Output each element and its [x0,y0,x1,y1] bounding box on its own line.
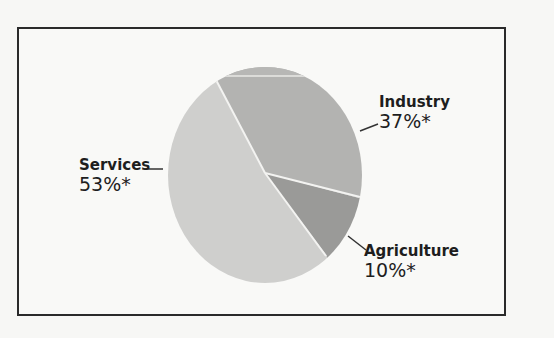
label-services: Services 53%* [79,158,150,194]
label-services-pct: 53%* [79,175,150,194]
label-industry: Industry 37%* [379,95,450,131]
label-agriculture-name: Agriculture [364,244,459,259]
label-industry-pct: 37%* [379,112,450,131]
leader-industry [360,124,378,131]
label-agriculture: Agriculture 10%* [364,244,459,280]
label-industry-name: Industry [379,95,450,110]
label-services-name: Services [79,158,150,173]
label-agriculture-pct: 10%* [364,261,459,280]
pie-top-cap [160,60,380,76]
